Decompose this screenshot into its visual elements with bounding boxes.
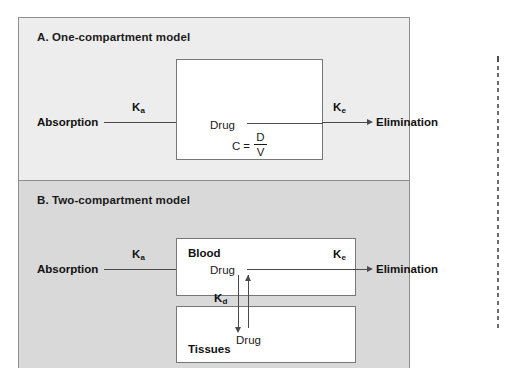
- panel-b-ka-symbol: K: [132, 248, 140, 260]
- caption-line-stub: [497, 111, 499, 115]
- caption-line-stub: [497, 142, 499, 146]
- panel-b-elimination-rate-label: Ke: [333, 249, 346, 261]
- caption-line-stub: [497, 134, 499, 138]
- panel-b-elimination-arrowhead: [367, 266, 373, 272]
- formula-fraction: D V: [254, 131, 267, 158]
- caption-line-stub: [497, 255, 499, 259]
- caption-line-stub: [497, 104, 499, 108]
- distribution-upward-arrowhead: [245, 275, 251, 281]
- caption-line-stub: [497, 157, 499, 161]
- caption-line-stub: [497, 126, 499, 130]
- caption-line-stub: [497, 217, 499, 221]
- distribution-downward-line: [238, 275, 239, 328]
- blood-drug-label: Drug: [210, 264, 235, 276]
- panel-b-elimination-label: Elimination: [376, 263, 438, 275]
- caption-line-stub: [497, 149, 499, 153]
- panel-b-title: B. Two-compartment model: [37, 194, 190, 206]
- caption-line-stub: [497, 96, 499, 100]
- tissues-drug-label: Drug: [236, 334, 261, 346]
- caption-line-stub: [497, 301, 499, 305]
- caption-line-stub: [497, 324, 499, 328]
- panel-b-absorption-rate-label: Ka: [132, 249, 145, 261]
- panel-a-ka-subscript: a: [141, 106, 145, 115]
- caption-line-stub: [497, 286, 499, 290]
- caption-line-stub: [497, 88, 499, 92]
- caption-line-stub: [497, 210, 499, 214]
- panel-b-kd-subscript: d: [223, 297, 228, 306]
- caption-line-stub: [497, 316, 499, 320]
- blood-drug-exit-line: [247, 269, 356, 270]
- clipped-caption-column: [497, 56, 509, 356]
- panel-b-ke-symbol: K: [333, 248, 341, 260]
- caption-line-stub: [497, 278, 499, 282]
- caption-line-stub: [497, 271, 499, 275]
- caption-line-stub: [497, 248, 499, 252]
- caption-line-stub: [497, 73, 499, 77]
- panel-a-ke-subscript: e: [342, 106, 346, 115]
- formula-numerator: D: [254, 131, 266, 143]
- caption-line-stub: [497, 225, 499, 229]
- blood-compartment-label: Blood: [188, 247, 221, 259]
- panel-two-compartment-model: B. Two-compartment model Absorption Ka B…: [19, 181, 409, 368]
- caption-line-stub: [497, 309, 499, 313]
- panel-a-ka-symbol: K: [132, 101, 140, 113]
- formula-denominator: V: [255, 146, 267, 158]
- panel-one-compartment-model: A. One-compartment model Absorption Ka D…: [19, 18, 409, 181]
- panel-a-title: A. One-compartment model: [37, 31, 190, 43]
- tissues-compartment-label: Tissues: [188, 343, 231, 355]
- caption-line-stub: [497, 56, 499, 62]
- tissues-compartment-box: Tissues Drug: [176, 306, 356, 363]
- caption-line-stub: [497, 172, 499, 176]
- panel-a-drug-label: Drug: [210, 119, 235, 131]
- panel-a-elimination-rate-label: Ke: [333, 102, 346, 114]
- panel-a-elimination-label: Elimination: [376, 116, 438, 128]
- distribution-downward-arrowhead: [235, 327, 241, 333]
- caption-line-stub: [497, 293, 499, 297]
- panel-a-ke-symbol: K: [333, 101, 341, 113]
- caption-line-stub: [497, 81, 499, 85]
- panel-a-elimination-connector-line: [322, 122, 367, 123]
- panel-b-ka-subscript: a: [141, 253, 145, 262]
- one-compartment-box: Drug C = D V: [176, 59, 323, 160]
- caption-line-stub: [497, 263, 499, 267]
- formula-fraction-bar: [254, 144, 267, 145]
- caption-line-stub: [497, 202, 499, 206]
- panel-a-drug-exit-line: [247, 123, 323, 124]
- caption-line-stub: [497, 240, 499, 244]
- panel-b-absorption-label: Absorption: [37, 263, 98, 275]
- figure-frame: A. One-compartment model Absorption Ka D…: [18, 17, 410, 368]
- caption-line-stub: [497, 119, 499, 123]
- caption-line-stub: [497, 233, 499, 237]
- panel-a-concentration-formula: C = D V: [177, 132, 322, 159]
- panel-b-ke-subscript: e: [342, 253, 346, 262]
- formula-equals: =: [243, 140, 250, 152]
- caption-line-stub: [497, 164, 499, 168]
- panel-a-elimination-arrowhead: [367, 119, 373, 125]
- blood-compartment-box: Blood Drug: [176, 238, 356, 296]
- panel-a-absorption-label: Absorption: [37, 116, 98, 128]
- caption-line-stub: [497, 195, 499, 199]
- panel-b-kd-symbol: K: [214, 292, 222, 304]
- caption-line-stub: [497, 180, 499, 184]
- distribution-upward-line: [248, 275, 249, 328]
- panel-b-elimination-connector-line: [355, 269, 367, 270]
- formula-lhs: C: [232, 140, 240, 152]
- caption-line-stub: [497, 187, 499, 191]
- caption-line-stub: [497, 66, 499, 70]
- panel-a-absorption-rate-label: Ka: [132, 102, 145, 114]
- panel-b-distribution-rate-label: Kd: [214, 293, 227, 305]
